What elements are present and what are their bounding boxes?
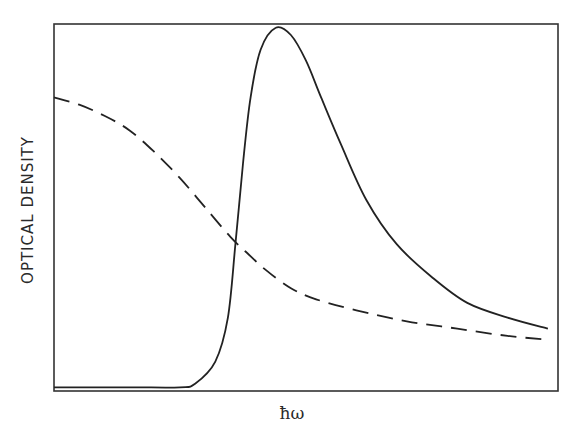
solid-curve [54, 27, 548, 388]
plot-frame [54, 24, 558, 391]
y-axis-label: OPTICAL DENSITY [19, 136, 37, 284]
dashed-curve [54, 97, 548, 339]
x-axis-label: ħω [280, 403, 305, 423]
chart-canvas [0, 0, 583, 433]
